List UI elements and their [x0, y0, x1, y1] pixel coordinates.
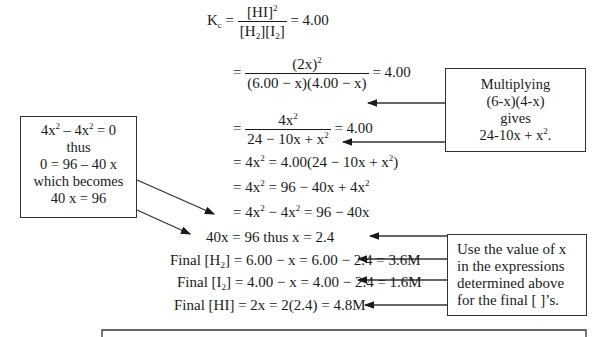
equation-line-4: = 4x2 = 4.00(24 − 10x + x2): [233, 153, 398, 171]
equation-line-5: = 4x2 = 96 − 40x + 4x2: [233, 178, 370, 196]
callout-use-value: Use the value of x in the expressions de…: [447, 234, 587, 316]
bottom-frame: [102, 330, 586, 337]
callout-multiplying: Multiplying (6-x)(4-x) gives 24-10x + x2…: [445, 68, 586, 152]
arrow-to-line6: [137, 180, 214, 214]
callout-left: 4x2 – 4x2 = 0 thus 0 = 96 – 40 x which b…: [20, 116, 137, 218]
equation-line-3: = 4x2 24 − 10x + x2 = 4.00: [233, 112, 373, 148]
equation-final-i2: Final [I2] = 4.00 − x = 4.00 − 2.4 = 1.6…: [177, 273, 422, 291]
equation-final-hi: Final [HI] = 2x = 2(2.4) = 4.8M: [174, 296, 366, 314]
equation-kc: Kc = [HI]2 [H2][I2] = 4.00: [207, 4, 329, 40]
kc-fraction: [HI]2 [H2][I2]: [238, 4, 287, 40]
equation-line-6: = 4x2 − 4x2 = 96 − 40x: [233, 203, 370, 221]
equation-solve-x: 40x = 96 thus x = 2.4: [206, 228, 334, 246]
equation-final-h2: Final [H2] = 6.00 − x = 6.00 − 2.4 = 3.6…: [170, 251, 421, 269]
arrow-to-line7: [137, 210, 190, 234]
equation-line-2: = (2x)2 (6.00 − x)(4.00 − x) = 4.00: [233, 56, 411, 92]
